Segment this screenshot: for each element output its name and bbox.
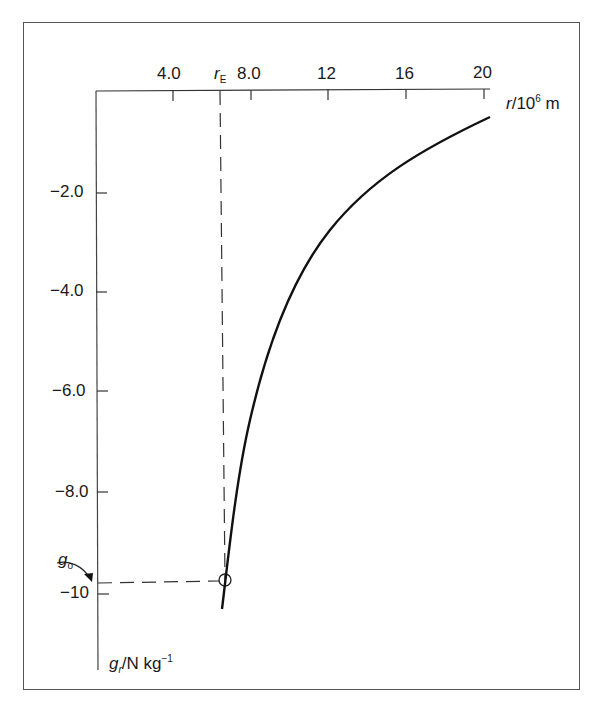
x-tick-label: 12 xyxy=(317,64,336,84)
r-e-label: rE xyxy=(214,64,226,85)
x-tick-label: 16 xyxy=(395,64,414,84)
x-tick-label: 4.0 xyxy=(157,64,181,84)
x-tick-label: 20 xyxy=(473,63,492,83)
x-tick-label: 8.0 xyxy=(237,64,261,84)
y-axis-line xyxy=(96,91,98,670)
x-axis-line xyxy=(96,89,490,91)
g0-dashed-line xyxy=(98,581,220,583)
y-axis-label: gr/N kg−1 xyxy=(109,653,173,675)
y-tick-label: −4.0 xyxy=(50,281,84,301)
g0-arrowhead-icon xyxy=(84,573,93,582)
gravity-curve xyxy=(222,117,490,609)
y-tick-label: −6.0 xyxy=(52,381,86,401)
y-tick-label: −2.0 xyxy=(50,182,84,202)
g0-label: go xyxy=(58,550,73,571)
y-tick-label: −8.0 xyxy=(55,482,89,502)
r-e-dashed-line xyxy=(220,91,225,580)
x-axis-label: r/106 m xyxy=(506,93,560,114)
y-tick-label: −10 xyxy=(60,583,89,603)
